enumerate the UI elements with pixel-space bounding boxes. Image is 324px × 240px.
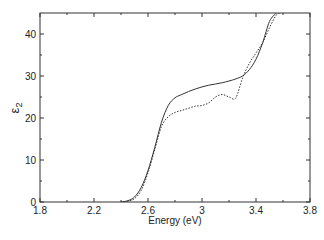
x-axis-label: Energy (eV) [148,215,201,226]
x-tick-label: 3.4 [249,205,263,216]
x-axis-ticks: 1.82.22.633.43.8 [33,13,317,216]
data-curves [121,13,280,202]
x-tick-label: 3.8 [303,205,317,216]
y-tick-label: 30 [25,71,37,82]
plot-frame [40,13,310,202]
y-tick-label: 20 [25,113,37,124]
y-axis-label: ε2 [7,103,24,114]
chart: 1.82.22.633.43.8 010203040 Energy (eV) ε… [0,0,324,240]
y-tick-label: 0 [30,197,36,208]
dotted-curve [121,13,280,202]
solid-curve [121,13,276,202]
y-axis-label-sub: 2 [14,103,24,108]
x-tick-label: 2.2 [87,205,101,216]
y-tick-label: 40 [25,29,37,40]
y-tick-label: 10 [25,155,37,166]
svg-text:ε2: ε2 [7,103,24,114]
